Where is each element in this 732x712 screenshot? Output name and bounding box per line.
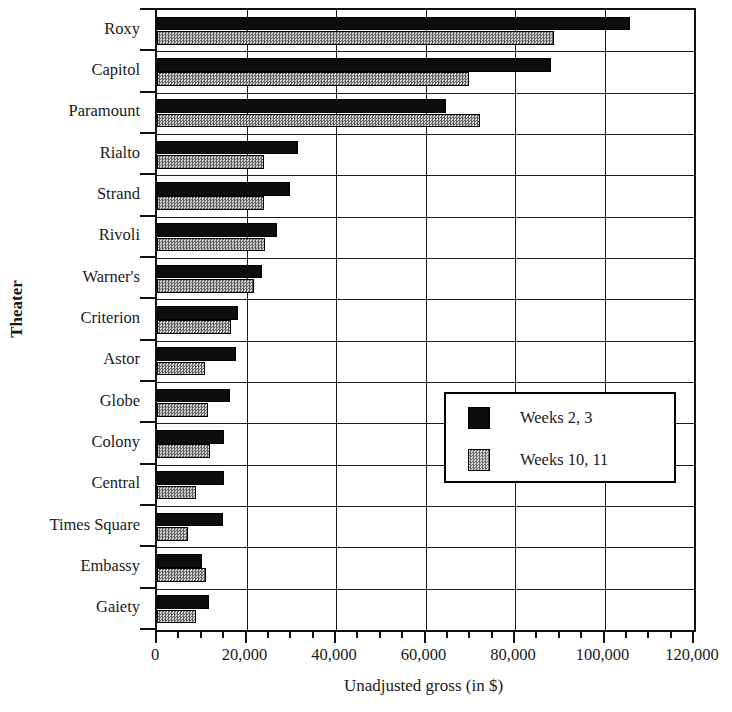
bar-weeks-2-3 (157, 99, 446, 113)
x-axis-tick-label: 0 (151, 645, 159, 665)
y-axis-category-label: Warner's (82, 266, 140, 288)
bar-weeks-10-11 (157, 444, 210, 458)
x-axis-minor-tick (647, 630, 649, 638)
y-axis-tick-mark (140, 587, 155, 589)
gridline-horizontal (157, 134, 694, 135)
y-axis-tick-mark (140, 132, 155, 134)
bar-weeks-10-11 (157, 114, 480, 128)
x-axis-major-tick (513, 630, 515, 643)
bar-weeks-2-3 (157, 595, 209, 609)
gridline-horizontal (157, 175, 694, 176)
x-axis-minor-tick (267, 630, 269, 638)
gridline-horizontal (157, 51, 694, 52)
y-axis-category-label: Capitol (91, 59, 140, 81)
gridline-vertical (605, 10, 606, 630)
gridline-horizontal (157, 547, 694, 548)
bar-weeks-10-11 (157, 72, 469, 86)
x-axis-minor-tick (491, 630, 493, 638)
x-axis-minor-tick (625, 630, 627, 638)
y-axis-category-label: Globe (100, 390, 140, 412)
x-axis-minor-tick (468, 630, 470, 638)
x-axis-minor-tick (446, 630, 448, 638)
gridline-horizontal (157, 299, 694, 300)
bar-weeks-2-3 (157, 513, 223, 527)
legend-swatch-hatched-icon (468, 449, 490, 471)
bar-weeks-10-11 (157, 238, 265, 252)
x-axis-minor-tick (177, 630, 179, 638)
x-axis-tick-label: 40,000 (311, 645, 356, 665)
y-axis-category-label: Roxy (104, 18, 140, 40)
x-axis-minor-tick (200, 630, 202, 638)
bar-weeks-2-3 (157, 182, 290, 196)
y-axis-category-label: Gaiety (96, 596, 140, 618)
y-axis-tick-labels: RoxyCapitolParamountRialtoStrandRivoliWa… (0, 8, 148, 628)
x-axis-major-tick (245, 630, 247, 643)
bar-weeks-2-3 (157, 58, 551, 72)
y-axis-category-label: Astor (103, 348, 140, 370)
bar-chart-figure: Theater RoxyCapitolParamountRialtoStrand… (0, 0, 732, 712)
bar-weeks-2-3 (157, 471, 224, 485)
bar-weeks-10-11 (157, 610, 196, 624)
x-axis-minor-tick (535, 630, 537, 638)
y-axis-tick-mark (140, 297, 155, 299)
legend-item-weeks-10-11: Weeks 10, 11 (446, 440, 674, 480)
y-axis-tick-mark (140, 91, 155, 93)
bar-weeks-10-11 (157, 486, 196, 500)
bar-weeks-2-3 (157, 389, 230, 403)
y-axis-tick-mark (140, 545, 155, 547)
y-axis-tick-mark (140, 380, 155, 382)
bar-weeks-2-3 (157, 17, 630, 31)
y-axis-tick-mark (140, 173, 155, 175)
bar-weeks-10-11 (157, 403, 208, 417)
x-axis-minor-tick (289, 630, 291, 638)
bar-weeks-10-11 (157, 527, 188, 541)
gridline-horizontal (157, 217, 694, 218)
y-axis-category-label: Embassy (80, 555, 140, 577)
y-axis-tick-mark (140, 8, 155, 10)
y-axis-tick-mark (140, 215, 155, 217)
bar-weeks-10-11 (157, 362, 205, 376)
x-axis-major-tick (334, 630, 336, 643)
x-axis-tick-label: 20,000 (222, 645, 267, 665)
x-axis-minor-tick (580, 630, 582, 638)
y-axis-tick-mark (140, 628, 155, 630)
x-axis-major-tick (692, 630, 694, 643)
x-axis-minor-tick (558, 630, 560, 638)
x-axis-major-tick (603, 630, 605, 643)
x-axis-tick-label: 80,000 (490, 645, 535, 665)
x-axis-minor-tick (356, 630, 358, 638)
y-axis-tick-mark (140, 256, 155, 258)
bar-weeks-2-3 (157, 141, 298, 155)
y-axis-category-label: Strand (97, 183, 140, 205)
plot-area (155, 8, 696, 632)
chart-legend: Weeks 2, 3 Weeks 10, 11 (444, 392, 676, 483)
gridline-horizontal (157, 506, 694, 507)
y-axis-category-label: Colony (91, 431, 140, 453)
gridline-vertical (515, 10, 516, 630)
y-axis-tick-mark (140, 339, 155, 341)
x-axis-minor-tick (312, 630, 314, 638)
gridline-horizontal (157, 258, 694, 259)
y-axis-category-label: Rialto (100, 142, 140, 164)
bar-weeks-10-11 (157, 320, 231, 334)
y-axis-tick-mark (140, 463, 155, 465)
y-axis-tick-mark (140, 421, 155, 423)
legend-label-series-1: Weeks 10, 11 (520, 450, 608, 470)
gridline-horizontal (157, 93, 694, 94)
x-axis-minor-tick (379, 630, 381, 638)
x-axis-tick-label: 120,000 (665, 645, 719, 665)
gridline-horizontal (157, 589, 694, 590)
bar-weeks-10-11 (157, 31, 554, 45)
y-axis-category-label: Rivoli (99, 224, 140, 246)
bar-weeks-2-3 (157, 347, 236, 361)
gridline-horizontal (157, 382, 694, 383)
y-axis-category-label: Paramount (69, 100, 141, 122)
bar-weeks-10-11 (157, 568, 206, 582)
bar-weeks-2-3 (157, 430, 224, 444)
x-axis-minor-tick (670, 630, 672, 638)
y-axis-category-label: Central (91, 472, 140, 494)
bar-weeks-10-11 (157, 196, 264, 210)
y-axis-category-label: Times Square (49, 514, 140, 536)
x-axis-minor-tick (401, 630, 403, 638)
y-axis-category-label: Criterion (80, 307, 140, 329)
